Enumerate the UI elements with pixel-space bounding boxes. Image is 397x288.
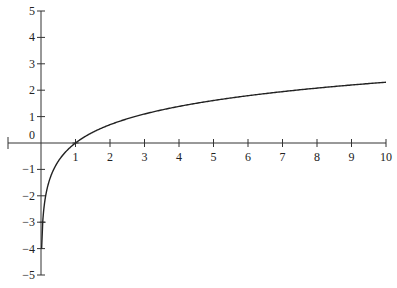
x-tick-label: 6 <box>245 150 251 164</box>
ln-curve <box>42 82 386 248</box>
y-tick-label: 2 <box>29 83 35 97</box>
x-tick-label: 8 <box>314 150 320 164</box>
x-tick-label: 4 <box>176 150 182 164</box>
x-tick-label: 1 <box>73 150 79 164</box>
x-tick-label: 5 <box>211 150 217 164</box>
y-tick-label: 5 <box>29 4 35 18</box>
y-tick-label: 4 <box>29 30 35 44</box>
x-tick-label: 2 <box>107 150 113 164</box>
x-tick-label: 3 <box>142 150 148 164</box>
log-function-chart: 12345678910543210−1−2−3−4−5 <box>0 0 397 288</box>
y-tick-label: 0 <box>29 128 35 142</box>
y-tick-label: −1 <box>22 162 35 176</box>
x-tick-label: 7 <box>280 150 286 164</box>
y-tick-label: −3 <box>22 215 35 229</box>
x-tick-label: 9 <box>349 150 355 164</box>
y-tick-label: −2 <box>22 189 35 203</box>
y-tick-label: −5 <box>22 268 35 282</box>
y-tick-label: 3 <box>29 57 35 71</box>
axes <box>8 11 386 275</box>
y-tick-label: −4 <box>22 242 35 256</box>
x-tick-label: 10 <box>380 150 392 164</box>
y-tick-label: 1 <box>29 110 35 124</box>
